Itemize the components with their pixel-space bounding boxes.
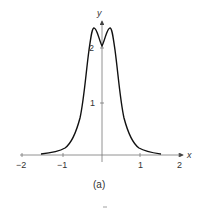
axis-ticks bbox=[22, 48, 179, 157]
y-tick-label: 2 bbox=[89, 43, 94, 53]
function-curve bbox=[41, 28, 161, 154]
y-axis-label: y bbox=[96, 8, 102, 18]
x-tick-label: 1 bbox=[138, 160, 143, 170]
chart: y x −2 −1 1 2 1 2 (a) bbox=[0, 0, 199, 209]
x-axis-label: x bbox=[186, 150, 192, 160]
y-tick-label: 1 bbox=[90, 98, 95, 108]
x-tick-label: −2 bbox=[16, 160, 26, 170]
caption: (a) bbox=[93, 179, 105, 190]
x-tick-label: 2 bbox=[177, 160, 182, 170]
x-tick-label: −1 bbox=[57, 160, 67, 170]
